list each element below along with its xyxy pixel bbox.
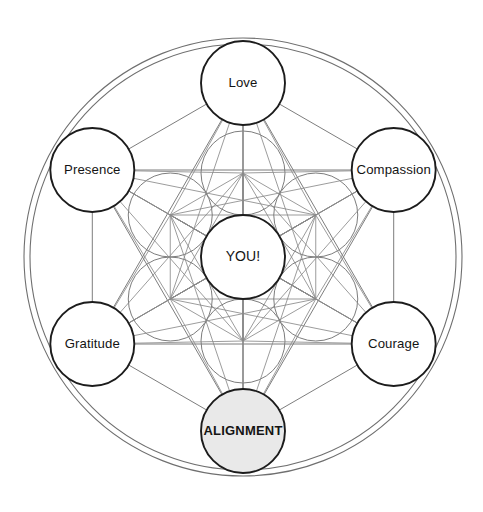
node-you-label: YOU!: [226, 248, 261, 264]
node-compassion[interactable]: Compassion: [352, 128, 436, 212]
node-presence[interactable]: Presence: [50, 128, 134, 212]
metatron-cube-svg: LoveCompassionCourageALIGNMENTGratitudeP…: [0, 0, 483, 512]
node-love[interactable]: Love: [201, 41, 285, 125]
node-alignment[interactable]: ALIGNMENT: [201, 389, 285, 473]
node-alignment-label: ALIGNMENT: [203, 423, 282, 438]
node-presence-label: Presence: [64, 162, 121, 177]
node-circles-group: LoveCompassionCourageALIGNMENTGratitudeP…: [50, 41, 435, 473]
node-gratitude[interactable]: Gratitude: [50, 302, 134, 386]
node-courage-label: Courage: [368, 336, 419, 351]
node-you[interactable]: YOU!: [201, 215, 285, 299]
alignment-diagram: LoveCompassionCourageALIGNMENTGratitudeP…: [0, 0, 483, 512]
node-compassion-label: Compassion: [357, 162, 431, 177]
node-gratitude-label: Gratitude: [65, 336, 120, 351]
node-courage[interactable]: Courage: [352, 302, 436, 386]
node-love-label: Love: [229, 75, 258, 90]
